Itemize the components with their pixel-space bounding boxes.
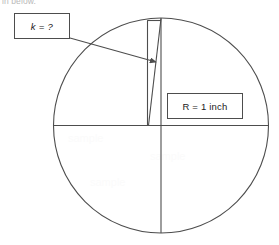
sliver-slanted-chord bbox=[149, 19, 162, 126]
k-callout-leader-line bbox=[70, 38, 156, 62]
k-value-callout: k = ? bbox=[14, 13, 70, 39]
radius-label: R = 1 inch bbox=[182, 101, 227, 112]
diagram-page: in below. sample sample sample k = ? R =… bbox=[0, 0, 279, 245]
k-value-label: k = ? bbox=[31, 21, 53, 32]
radius-callout: R = 1 inch bbox=[167, 93, 243, 119]
